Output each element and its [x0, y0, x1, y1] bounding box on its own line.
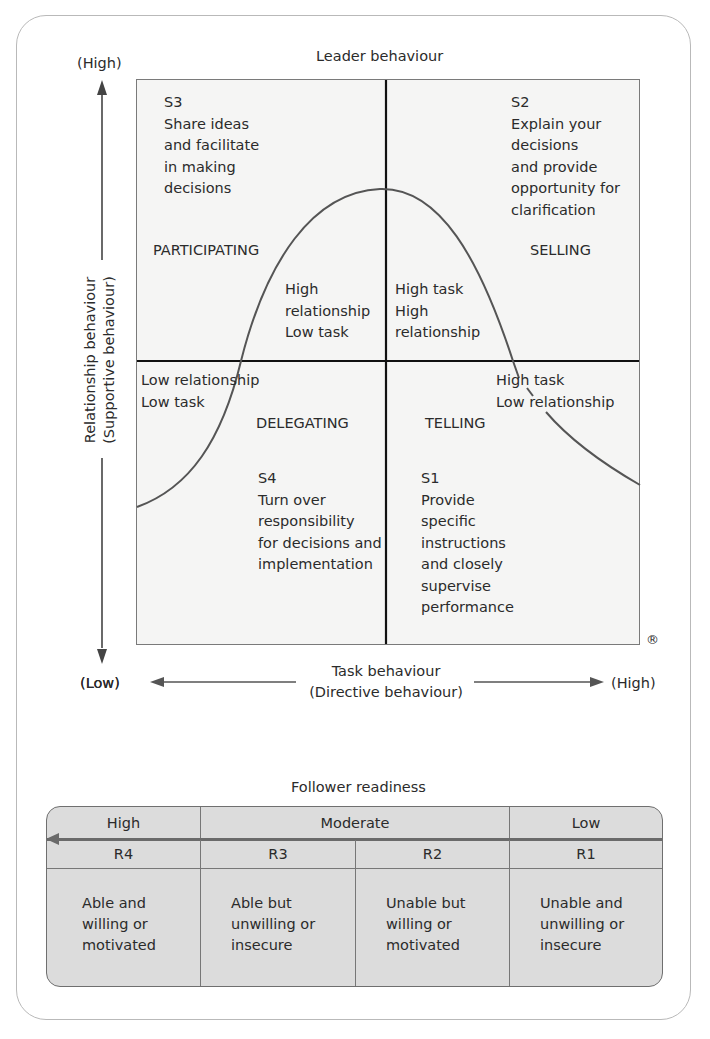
style-selling: SELLING [530, 240, 591, 262]
s1-curve-label: High task Low relationship [496, 370, 614, 413]
readiness-desc-r4: Able and willing or motivated [47, 869, 201, 987]
s3-curve-label: High relationship Low task [285, 279, 370, 344]
readiness-desc-r3: Able but unwilling or insecure [201, 869, 356, 987]
s4-code: S4 [258, 468, 382, 490]
readiness-code-r3: R3 [201, 840, 356, 869]
readiness-code-r4: R4 [47, 840, 201, 869]
style-participating: PARTICIPATING [153, 240, 259, 262]
quadrant-s1: S1 Provide specific instructions and clo… [421, 468, 514, 619]
s1-code: S1 [421, 468, 514, 490]
s4-curve-label: Low relationship Low task [141, 370, 259, 413]
readiness-desc-r2: Unable but willing or motivated [356, 869, 510, 987]
readiness-level-low: Low [510, 807, 662, 839]
style-delegating: DELEGATING [256, 413, 349, 435]
quadrant-s3: S3 Share ideas and facilitate in making … [164, 92, 259, 200]
readiness-desc-r1: Unable and unwilling or insecure [510, 869, 662, 987]
readiness-level-high: High [47, 807, 201, 839]
s2-code: S2 [511, 92, 620, 114]
x-axis-label: Task behaviour (Directive behaviour) [286, 661, 486, 703]
follower-readiness-title: Follower readiness [291, 777, 426, 799]
x-axis-low-label: (Low) [80, 673, 120, 695]
arrow-down-icon [97, 649, 107, 664]
s2-description: Explain your decisions and provide oppor… [511, 114, 620, 222]
readiness-code-r2: R2 [356, 840, 510, 869]
arrow-left-icon [150, 677, 164, 687]
readiness-level-moderate: Moderate [201, 807, 510, 839]
s3-code: S3 [164, 92, 259, 114]
leadership-curve [137, 189, 519, 507]
arrow-up-icon [97, 80, 107, 95]
s3-description: Share ideas and facilitate in making dec… [164, 114, 259, 200]
registered-mark: ® [646, 632, 659, 647]
s4-description: Turn over responsibility for decisions a… [258, 490, 382, 576]
style-telling: TELLING [425, 413, 486, 435]
x-axis-high-label: (High) [611, 673, 656, 695]
follower-readiness-table: High Moderate Low R4 R3 R2 R1 Able and w… [46, 806, 663, 987]
s1-description: Provide specific instructions and closel… [421, 490, 514, 619]
y-axis-label: Relationship behaviour (Supportive behav… [81, 276, 119, 444]
arrow-right-icon [590, 677, 604, 687]
readiness-code-r1: R1 [510, 840, 662, 869]
quadrant-s2: S2 Explain your decisions and provide op… [511, 92, 620, 221]
quadrant-s4: S4 Turn over responsibility for decision… [258, 468, 382, 576]
s2-curve-label: High task High relationship [395, 279, 480, 344]
